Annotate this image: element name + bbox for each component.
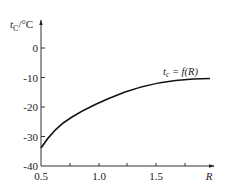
x-axis-title: R <box>205 170 213 182</box>
svg-text:0.5: 0.5 <box>34 170 48 182</box>
y-tick-labels: 0 -10 -20 -30 -40 <box>23 42 38 172</box>
svg-text:-10: -10 <box>23 72 38 84</box>
svg-text:1.5: 1.5 <box>149 170 163 182</box>
svg-text:-30: -30 <box>23 131 38 143</box>
svg-text:-20: -20 <box>23 101 38 113</box>
curve-annotation: tc = f(R) <box>163 66 198 79</box>
svg-text:1.0: 1.0 <box>92 170 106 182</box>
y-ticks <box>41 48 45 137</box>
x-tick-labels: 0.5 1.0 1.5 <box>34 170 163 182</box>
svg-text:0: 0 <box>33 42 39 54</box>
curve-tc-f-r <box>41 79 210 149</box>
chart: 0 -10 -20 -30 -40 0.5 1.0 1.5 R tC/°C tc… <box>0 0 229 196</box>
y-axis-title: tC/°C <box>10 18 33 33</box>
